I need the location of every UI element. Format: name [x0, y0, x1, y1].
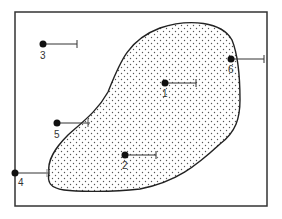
point-6: 6: [228, 55, 265, 75]
point-3: 3: [40, 40, 78, 61]
point-label: 2: [122, 160, 128, 171]
point-label: 3: [40, 50, 46, 61]
region-diagram: 1 2 3 4 5 6: [0, 0, 282, 219]
point-label: 6: [228, 64, 234, 75]
point-label: 5: [54, 129, 60, 140]
point-label: 1: [162, 88, 168, 99]
point-label: 4: [18, 177, 24, 188]
point-4: 4: [12, 169, 50, 188]
